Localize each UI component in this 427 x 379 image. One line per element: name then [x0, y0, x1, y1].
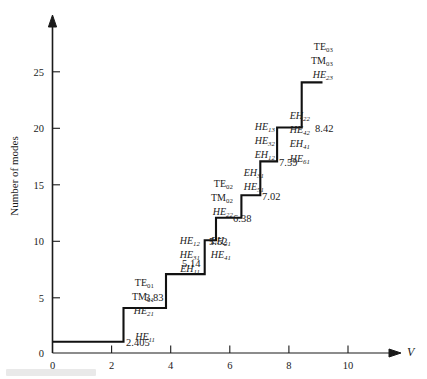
mode-count-step-chart: Number of modes V 0 5 10 15 20 25 0 2 4 …	[0, 0, 427, 379]
y-tick-label-25: 25	[24, 66, 44, 77]
cutoff-value-7-02: 7.02	[262, 191, 280, 202]
x-tick-label-8: 8	[286, 360, 291, 371]
cutoff-value-8-42: 8.42	[315, 123, 333, 134]
y-tick-label-15: 15	[24, 179, 44, 190]
mode-label-HE41: HE41	[211, 249, 231, 263]
y-axis-ticks	[53, 72, 61, 298]
y-tick-label-0: 0	[24, 348, 44, 359]
mode-group-g-759: HE13HE32EH12	[255, 121, 275, 164]
mode-label-TM02: TM02	[211, 192, 233, 206]
x-axis-label: V	[407, 345, 414, 360]
x-tick-label-6: 6	[227, 360, 232, 371]
mode-label-HE51: HE51	[244, 181, 264, 195]
y-axis	[48, 15, 56, 353]
mode-label-HE12: HE12	[180, 235, 200, 249]
mode-label-HE13: HE13	[255, 121, 275, 135]
mode-group-g-638: TE02TM02HE22	[211, 178, 233, 221]
mode-label-HE42: HE42	[290, 124, 310, 138]
mode-label-EH31: EH31	[244, 167, 264, 181]
mode-group-g-702: EH31HE51	[244, 167, 264, 195]
y-axis-label: Number of modes	[8, 121, 20, 231]
mode-group-g-383: TE01TM01HE21	[132, 277, 154, 320]
mode-group-g-514: HE12HE31EH11	[180, 235, 200, 278]
y-tick-label-20: 20	[24, 123, 44, 134]
mode-label-EH41: EH41	[290, 138, 310, 152]
x-tick-label-2: 2	[109, 360, 114, 371]
x-tick-label-4: 4	[168, 360, 173, 371]
x-axis	[53, 349, 402, 357]
mode-label-TM01: TM01	[132, 291, 154, 305]
mode-label-HE22: HE22	[211, 206, 233, 220]
page-artifact	[6, 369, 96, 376]
mode-label-HE11: HE11	[135, 331, 155, 345]
x-tick-label-10: 10	[343, 360, 354, 371]
mode-count-step-curve	[53, 82, 323, 341]
mode-label-EH11: EH11	[180, 263, 200, 277]
mode-label-TE03: TE03	[311, 41, 333, 55]
mode-group-g-te03: TE03TM03HE23	[311, 41, 333, 84]
mode-group-g-552: EH21HE41	[211, 235, 231, 263]
mode-label-HE21: HE21	[132, 305, 154, 319]
mode-label-TE01: TE01	[132, 277, 154, 291]
mode-label-EH21: EH21	[211, 235, 231, 249]
mode-label-TM03: TM03	[311, 55, 333, 69]
mode-label-EH12: EH12	[255, 149, 275, 163]
mode-label-HE61: HE61	[290, 153, 310, 167]
y-tick-label-5: 5	[24, 292, 44, 303]
mode-group-g-842a: EH22HE42EH41HE61	[290, 110, 310, 167]
mode-group-g-he11: HE11	[135, 331, 155, 345]
cutoff-value-6-38: 6.38	[233, 213, 251, 224]
y-tick-label-10: 10	[24, 236, 44, 247]
mode-label-EH22: EH22	[290, 110, 310, 124]
mode-label-HE32: HE32	[255, 135, 275, 149]
mode-label-HE23: HE23	[311, 69, 333, 83]
mode-label-TE02: TE02	[211, 178, 233, 192]
mode-label-HE31: HE31	[180, 249, 200, 263]
